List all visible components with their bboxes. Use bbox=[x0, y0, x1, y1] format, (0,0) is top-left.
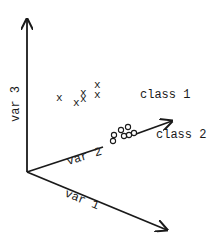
feature-space-diagram: var 3 var 1 var 2 x x x x x x class 1 bbox=[0, 0, 218, 244]
var2-label: var 2 bbox=[65, 145, 104, 169]
o-marker-icon bbox=[126, 132, 131, 137]
var3-axis: var 3 bbox=[9, 19, 27, 172]
x-marker-icon: x bbox=[94, 89, 101, 101]
class1-label: class 1 bbox=[140, 88, 190, 102]
var1-axis: var 1 bbox=[27, 172, 167, 230]
var3-label: var 3 bbox=[9, 86, 23, 122]
class2-cluster bbox=[110, 124, 136, 143]
x-marker-icon: x bbox=[56, 92, 63, 104]
o-marker-icon bbox=[110, 138, 115, 143]
x-marker-icon: x bbox=[73, 97, 80, 109]
o-marker-icon bbox=[121, 133, 126, 138]
o-marker-icon bbox=[125, 124, 130, 129]
class1-cluster: x x x x x x class 1 bbox=[56, 79, 190, 109]
o-marker-icon bbox=[111, 132, 116, 137]
var2-axis: var 2 bbox=[27, 121, 172, 172]
var1-label: var 1 bbox=[63, 187, 102, 213]
class2-label: class 2 bbox=[156, 128, 206, 142]
o-marker-icon bbox=[131, 130, 136, 135]
o-marker-icon bbox=[118, 127, 123, 132]
x-marker-icon: x bbox=[80, 93, 87, 105]
